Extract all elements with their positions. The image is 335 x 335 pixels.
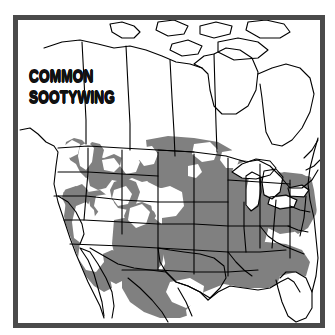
range-map-frame: COMMON SOOTYWING xyxy=(13,15,325,328)
north-america-range-map xyxy=(18,20,320,323)
figure-page: COMMON SOOTYWING xyxy=(0,0,335,335)
